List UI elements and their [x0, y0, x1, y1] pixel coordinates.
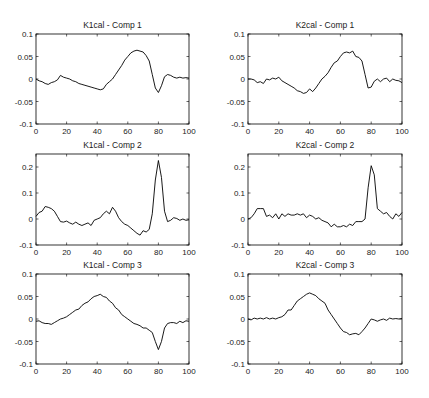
y-tick-label: 0 — [241, 75, 246, 84]
y-tick-label: -0.1 — [19, 120, 33, 129]
x-tick-label: 0 — [246, 127, 251, 136]
x-tick-label: 80 — [154, 248, 163, 257]
x-tick-label: 60 — [123, 367, 132, 376]
figure-canvas: K1cal - Comp 1020406080100-0.1-0.0500.05… — [0, 0, 429, 398]
y-tick-label: 0.2 — [22, 163, 34, 172]
x-tick-label: 20 — [274, 367, 283, 376]
y-tick-label: 0.1 — [22, 189, 34, 198]
x-tick-label: 60 — [336, 367, 345, 376]
data-line — [36, 50, 189, 92]
y-tick-label: 0.05 — [229, 53, 245, 62]
y-tick-label: 0.1 — [234, 270, 246, 279]
y-tick-label: 0.05 — [17, 53, 33, 62]
y-tick-label: 0.2 — [234, 163, 246, 172]
y-tick-label: 0 — [241, 315, 246, 324]
subplot-title: K2cal - Comp 2 — [296, 140, 355, 150]
y-tick-label: -0.05 — [15, 338, 34, 347]
x-tick-label: 80 — [154, 367, 163, 376]
x-tick-label: 20 — [62, 127, 71, 136]
x-tick-label: 0 — [34, 367, 39, 376]
y-tick-label: 0.1 — [22, 30, 34, 39]
subplot-4: K2cal - Comp 2020406080100-0.100.10.2 — [231, 140, 409, 257]
data-line — [248, 293, 402, 335]
data-line — [36, 161, 189, 236]
y-tick-label: 0 — [29, 315, 34, 324]
data-line — [36, 294, 189, 349]
x-tick-label: 100 — [182, 127, 196, 136]
subplot-title: K1cal - Comp 3 — [83, 260, 142, 270]
axes-box — [36, 274, 189, 364]
x-tick-label: 80 — [154, 127, 163, 136]
x-tick-label: 100 — [182, 367, 196, 376]
subplot-title: K2cal - Comp 1 — [296, 20, 355, 30]
y-tick-label: -0.1 — [19, 360, 33, 369]
x-tick-label: 40 — [305, 248, 314, 257]
x-tick-label: 60 — [336, 248, 345, 257]
data-line — [248, 166, 402, 227]
y-tick-label: -0.05 — [15, 98, 34, 107]
x-tick-label: 40 — [93, 367, 102, 376]
subplot-title: K1cal - Comp 2 — [83, 140, 142, 150]
x-tick-label: 20 — [274, 248, 283, 257]
x-tick-label: 60 — [336, 127, 345, 136]
x-tick-label: 40 — [305, 127, 314, 136]
x-tick-label: 40 — [93, 248, 102, 257]
subplot-6: K2cal - Comp 3020406080100-0.1-0.0500.05… — [227, 260, 409, 376]
x-tick-label: 0 — [34, 127, 39, 136]
figure: K1cal - Comp 1020406080100-0.1-0.0500.05… — [0, 0, 429, 398]
y-tick-label: 0.05 — [17, 293, 33, 302]
x-tick-label: 100 — [395, 248, 409, 257]
x-tick-label: 40 — [93, 127, 102, 136]
data-line — [248, 51, 402, 93]
x-tick-label: 80 — [367, 127, 376, 136]
y-tick-label: 0 — [241, 215, 246, 224]
subplot-title: K1cal - Comp 1 — [83, 20, 142, 30]
y-tick-label: -0.1 — [231, 241, 245, 250]
subplot-title: K2cal - Comp 3 — [296, 260, 355, 270]
y-tick-label: -0.1 — [231, 360, 245, 369]
x-tick-label: 40 — [305, 367, 314, 376]
y-tick-label: 0 — [29, 75, 34, 84]
subplot-3: K1cal - Comp 2020406080100-0.100.10.2 — [19, 140, 196, 257]
x-tick-label: 100 — [182, 248, 196, 257]
x-tick-label: 20 — [62, 248, 71, 257]
axes-box — [36, 154, 189, 245]
subplot-1: K1cal - Comp 1020406080100-0.1-0.0500.05… — [15, 20, 196, 136]
y-tick-label: 0.1 — [234, 189, 246, 198]
x-tick-label: 100 — [395, 367, 409, 376]
y-tick-label: 0.05 — [229, 293, 245, 302]
x-tick-label: 80 — [367, 367, 376, 376]
y-tick-label: 0.1 — [234, 30, 246, 39]
x-tick-label: 80 — [367, 248, 376, 257]
y-tick-label: -0.1 — [231, 120, 245, 129]
x-tick-label: 0 — [34, 248, 39, 257]
x-tick-label: 20 — [62, 367, 71, 376]
axes-box — [248, 154, 402, 245]
x-tick-label: 60 — [123, 248, 132, 257]
y-tick-label: -0.05 — [227, 338, 246, 347]
x-tick-label: 20 — [274, 127, 283, 136]
subplot-5: K1cal - Comp 3020406080100-0.1-0.0500.05… — [15, 260, 196, 376]
x-tick-label: 100 — [395, 127, 409, 136]
x-tick-label: 60 — [123, 127, 132, 136]
y-tick-label: -0.1 — [19, 241, 33, 250]
y-tick-label: 0 — [29, 215, 34, 224]
y-tick-label: 0.1 — [22, 270, 34, 279]
x-tick-label: 0 — [246, 367, 251, 376]
subplot-2: K2cal - Comp 1020406080100-0.1-0.0500.05… — [227, 20, 409, 136]
x-tick-label: 0 — [246, 248, 251, 257]
y-tick-label: -0.05 — [227, 98, 246, 107]
